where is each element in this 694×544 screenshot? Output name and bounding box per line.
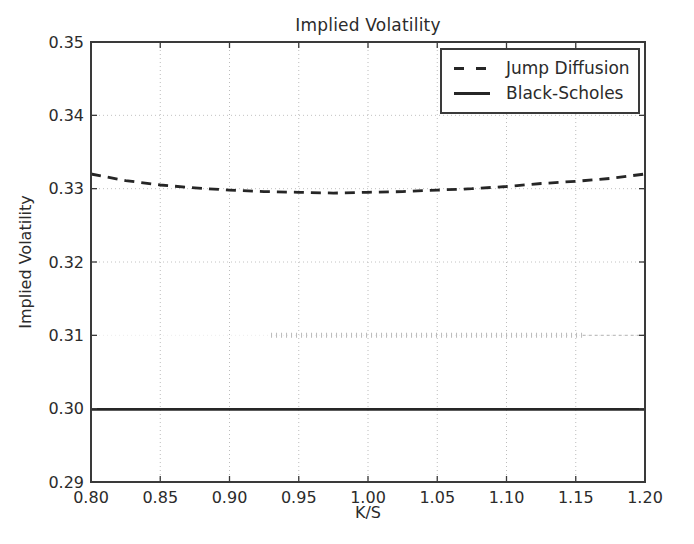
legend-item-jump-diffusion: Jump Diffusion bbox=[454, 60, 626, 77]
legend-label-black-scholes: Black-Scholes bbox=[506, 85, 623, 102]
implied-volatility-figure: Implied Volatility Implied Volatility 0.… bbox=[0, 0, 694, 544]
legend-label-jump-diffusion: Jump Diffusion bbox=[506, 60, 630, 77]
legend-item-black-scholes: Black-Scholes bbox=[454, 85, 626, 102]
y-tick-label: 0.35 bbox=[48, 33, 84, 52]
legend: Jump Diffusion Black-Scholes bbox=[440, 48, 640, 114]
y-tick-label: 0.29 bbox=[48, 473, 84, 492]
dashed-line-sample-icon bbox=[454, 67, 490, 70]
y-tick-label: 0.33 bbox=[48, 179, 84, 198]
x-axis-label: K/S bbox=[91, 503, 645, 522]
y-tick-label: 0.31 bbox=[48, 326, 84, 345]
y-tick-label: 0.34 bbox=[48, 106, 84, 125]
solid-line-sample-icon bbox=[454, 92, 490, 95]
y-tick-label: 0.30 bbox=[48, 399, 84, 418]
y-tick-label: 0.32 bbox=[48, 253, 84, 272]
